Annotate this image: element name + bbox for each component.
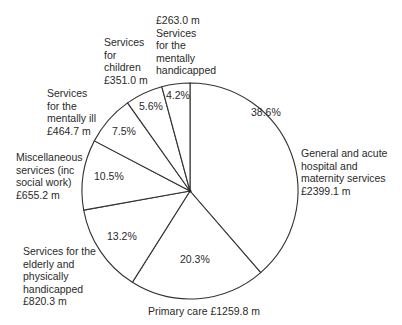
label-mentally-ill: Servicesfor thementally ill£464.7 m [47, 87, 96, 137]
percent-general-acute: 38.6% [251, 106, 281, 118]
percent-miscellaneous: 10.5% [94, 170, 124, 182]
label-elderly: Services for theelderly andphysicallyhan… [23, 245, 96, 308]
label-mentally-handicapped: £263.0 mServicesfor thementallyhandicapp… [156, 14, 216, 77]
percent-children: 5.6% [139, 100, 163, 112]
label-miscellaneous: Miscellaneousservices (incsocial work)£6… [16, 151, 83, 201]
label-primary-care: Primary care £1259.8 m [148, 305, 260, 318]
percent-mentally-handicapped: 4.2% [166, 89, 190, 101]
percent-primary-care: 20.3% [180, 253, 210, 265]
percent-mentally-ill: 7.5% [112, 125, 136, 137]
percent-elderly: 13.2% [107, 230, 137, 242]
label-children: Servicesforchildren£351.0 m [104, 36, 148, 86]
pie-center-dot [189, 190, 192, 193]
label-general-acute: General and acutehospital andmaternity s… [301, 147, 387, 197]
